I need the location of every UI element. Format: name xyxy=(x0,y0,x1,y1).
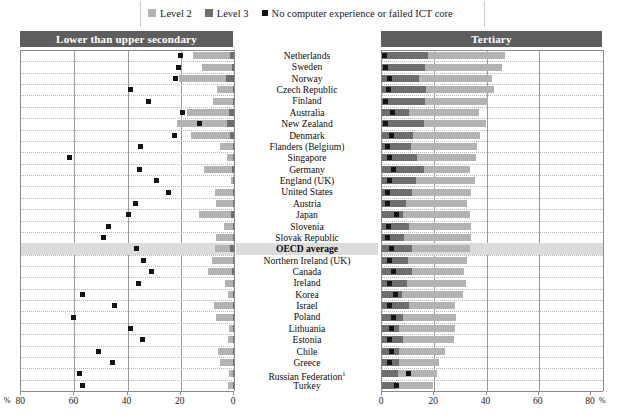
bar-level2 xyxy=(412,245,469,252)
bar-level3 xyxy=(230,132,234,139)
marker-no-computer xyxy=(389,133,394,138)
panel-title-left: Lower than upper secondary xyxy=(20,31,233,47)
marker-no-computer xyxy=(383,65,388,70)
row-separator xyxy=(21,175,234,176)
marker-no-computer xyxy=(383,99,388,104)
row-separator xyxy=(21,289,234,290)
row-separator xyxy=(382,311,603,312)
marker-no-computer xyxy=(406,371,411,376)
row-separator xyxy=(382,164,603,165)
row-separator xyxy=(382,323,603,324)
row-separator xyxy=(21,334,234,335)
bar-level2 xyxy=(213,98,233,105)
row-separator xyxy=(382,186,603,187)
marker-no-computer xyxy=(140,337,145,342)
legend-item-0: Level 2 xyxy=(148,8,192,19)
bar-level2 xyxy=(216,234,233,241)
category-label-korea: Korea xyxy=(236,289,378,300)
bar-level3 xyxy=(233,370,234,377)
bar-level3 xyxy=(382,211,403,218)
category-label-austria: Austria xyxy=(236,198,378,209)
row-separator xyxy=(382,118,603,119)
bar-level3 xyxy=(233,98,234,105)
bar-level2 xyxy=(202,64,233,71)
row-separator xyxy=(21,152,234,153)
marker-no-computer xyxy=(390,110,395,115)
axis-right-40-label: 40 xyxy=(474,396,498,406)
row-separator xyxy=(382,175,603,176)
marker-no-computer xyxy=(146,99,151,104)
bar-level3 xyxy=(233,189,234,196)
bar-level2 xyxy=(428,52,505,59)
row-separator xyxy=(382,289,603,290)
row-separator xyxy=(21,255,234,256)
category-label-finland: Finland xyxy=(236,95,378,106)
marker-no-computer xyxy=(383,121,388,126)
axis-left-40-label: 40 xyxy=(115,396,139,406)
bar-level2 xyxy=(212,257,233,264)
bar-level3 xyxy=(233,223,234,230)
bar-level2 xyxy=(215,189,234,196)
category-label-column: NetherlandsSwedenNorwayCzech RepublicFin… xyxy=(236,50,378,391)
bar-level3 xyxy=(233,280,234,287)
legend-divider-left xyxy=(140,1,141,27)
bar-level2 xyxy=(227,154,234,161)
row-separator xyxy=(382,141,603,142)
bar-level3 xyxy=(233,200,234,207)
row-separator xyxy=(21,266,234,267)
bar-level3 xyxy=(233,291,234,298)
marker-no-computer xyxy=(106,224,111,229)
bar-level3 xyxy=(233,314,234,321)
marker-no-computer xyxy=(389,246,394,251)
category-label-czech-republic: Czech Republic xyxy=(236,84,378,95)
bar-level2 xyxy=(403,336,454,343)
marker-no-computer xyxy=(80,292,85,297)
marker-no-computer xyxy=(173,76,178,81)
bar-level3 xyxy=(382,280,407,287)
bar-level3 xyxy=(382,370,398,377)
axis-left-0-label: 0 xyxy=(221,396,245,406)
bar-level3 xyxy=(230,245,234,252)
marker-no-computer xyxy=(136,281,141,286)
bar-level2 xyxy=(179,75,226,82)
bar-level3 xyxy=(233,177,234,184)
category-label-germany: Germany xyxy=(236,164,378,175)
bar-level2 xyxy=(208,268,232,275)
bar-level2 xyxy=(216,314,233,321)
row-separator xyxy=(21,323,234,324)
marker-no-computer xyxy=(387,337,392,342)
bar-level2 xyxy=(416,177,475,184)
legend-divider-right xyxy=(484,1,485,27)
bar-level2 xyxy=(407,280,466,287)
marker-no-computer xyxy=(110,360,115,365)
category-label-canada: Canada xyxy=(236,266,378,277)
marker-no-computer xyxy=(387,281,392,286)
axis-right-20-label: 20 xyxy=(421,396,445,406)
marker-no-computer xyxy=(386,87,391,92)
marker-no-computer xyxy=(176,65,181,70)
bar-level2 xyxy=(399,325,455,332)
bar-level2 xyxy=(412,268,464,275)
row-separator xyxy=(382,61,603,62)
bar-level3 xyxy=(382,64,425,71)
marker-no-computer xyxy=(71,315,76,320)
legend-label: No computer experience or failed ICT cor… xyxy=(272,8,453,19)
bar-level3 xyxy=(230,52,234,59)
marker-no-computer xyxy=(101,235,106,240)
square-swatch-level3 xyxy=(205,9,213,17)
row-separator xyxy=(21,346,234,347)
row-separator xyxy=(382,198,603,199)
row-separator xyxy=(21,221,234,222)
category-label-sweden: Sweden xyxy=(236,61,378,72)
category-label-singapore: Singapore xyxy=(236,152,378,163)
row-separator xyxy=(21,232,234,233)
bar-level3 xyxy=(233,359,234,366)
row-separator xyxy=(21,357,234,358)
chart-legend: Level 2Level 3No computer experience or … xyxy=(0,0,622,28)
bar-level2 xyxy=(399,348,445,355)
plot-area-lower-than-upper-secondary xyxy=(20,50,235,391)
row-separator xyxy=(382,152,603,153)
marker-no-computer xyxy=(166,190,171,195)
category-label-estonia: Estonia xyxy=(236,334,378,345)
category-label-united-states: United States xyxy=(236,186,378,197)
